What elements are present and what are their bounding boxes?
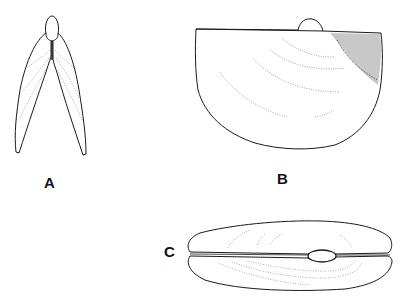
panel-label-b: B <box>277 170 288 187</box>
stippled-area <box>330 33 381 85</box>
panel-a-drawing <box>15 16 86 155</box>
panel-c-drawing <box>188 221 392 291</box>
panel-label-a: A <box>44 174 55 191</box>
panel-b-drawing <box>195 19 382 149</box>
panel-label-c: C <box>164 243 175 260</box>
shell-illustration: A B C <box>0 0 405 299</box>
